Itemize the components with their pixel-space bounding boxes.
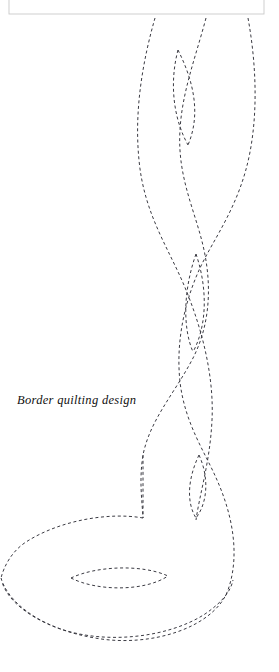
inner-leaf-bottom-upper-edge [71, 568, 168, 578]
quilting-design-page: Border quilting design [0, 0, 279, 672]
top-border-box [9, 0, 264, 14]
braid-left-strand [138, 18, 213, 520]
inner-leaf-top-right-edge [178, 50, 195, 145]
inner-leaf-bottom-lower-edge [71, 576, 168, 588]
design-caption: Border quilting design [17, 394, 136, 407]
braid-right-strand [2, 18, 255, 641]
braid-mid-strand [141, 18, 208, 518]
inner-leaf-top-left-edge [173, 50, 188, 145]
border-quilting-design-illustration [0, 0, 279, 672]
big-leaf-upper-edge [1, 516, 143, 578]
big-leaf-lower-edge [1, 578, 233, 637]
inner-leaf-middle-right-edge [193, 254, 204, 352]
